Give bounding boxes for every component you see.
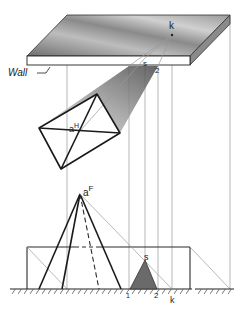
wall-slab	[27, 15, 230, 65]
wall-front-view	[27, 247, 230, 289]
label-2-front: 2	[154, 291, 159, 300]
label-a-front: aF	[83, 184, 94, 198]
label-s-top: s	[143, 59, 147, 68]
shadow-triangle-front	[130, 260, 157, 289]
label-k-front: k	[170, 295, 175, 305]
wall-front-edge	[27, 56, 190, 65]
ground-line	[10, 289, 234, 294]
label-wall: Wall	[8, 67, 28, 78]
shadow-band-plan	[39, 66, 158, 133]
label-2-top: 2	[155, 66, 160, 75]
label-s-front: s	[144, 252, 149, 262]
label-a-plan: aH	[69, 122, 79, 134]
wall-leader-arrow	[37, 67, 50, 73]
pyramid-front-view	[39, 194, 172, 289]
label-1-front: 1	[126, 292, 130, 299]
shadow-construction-diagram: Wall k s 2 aH aF s 1 2 k	[0, 0, 244, 317]
